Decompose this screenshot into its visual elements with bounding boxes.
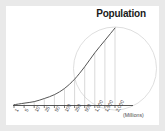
population-chart-figure: Population 151025501002505001,0001,5002,… bbox=[0, 0, 165, 131]
vertical-gridlines bbox=[14, 28, 115, 106]
x-axis-unit-label: (Millions) bbox=[123, 112, 144, 118]
chart-title: Population bbox=[84, 8, 158, 19]
